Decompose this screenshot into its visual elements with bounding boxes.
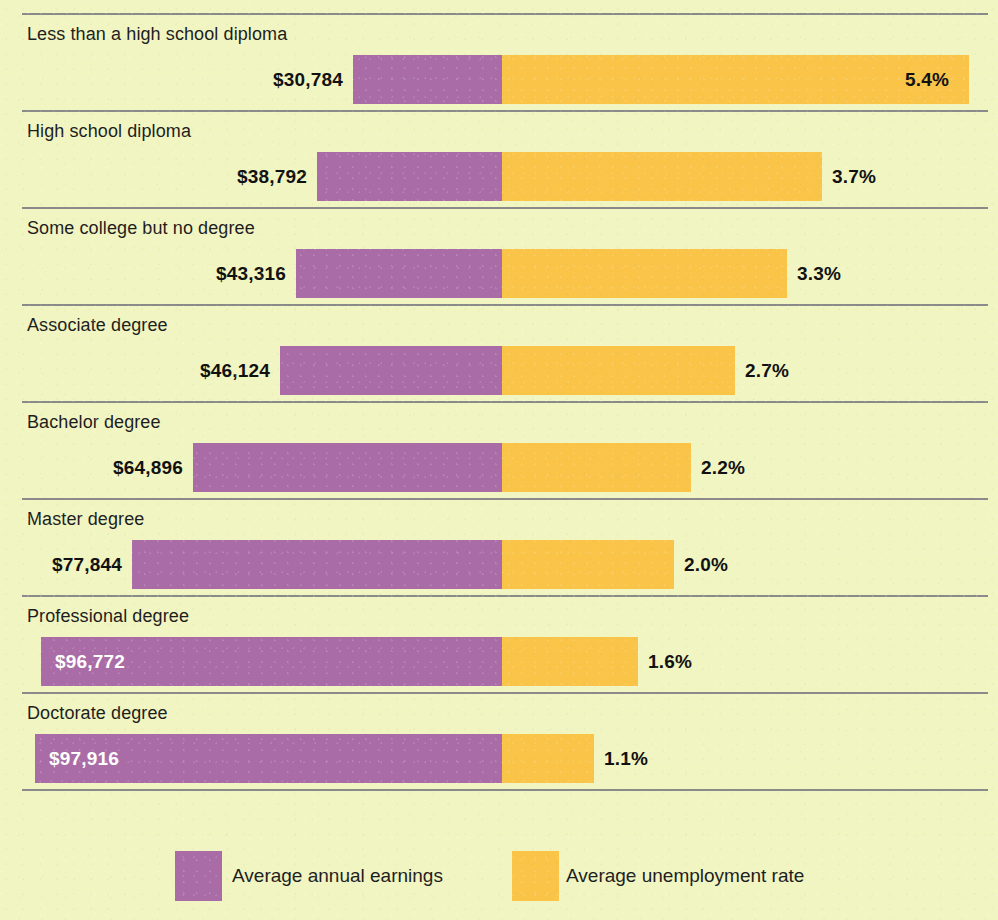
- chart-row: Associate degree $46,124 2.7%: [0, 304, 998, 401]
- chart-row: Professional degree $96,772 1.6%: [0, 595, 998, 692]
- unemployment-bar: [502, 249, 787, 298]
- row-separator: [22, 13, 988, 15]
- unemployment-value-label: 1.6%: [648, 637, 692, 686]
- unemployment-bar: [502, 55, 969, 104]
- unemployment-bar: [502, 346, 735, 395]
- unemployment-value-label: 1.1%: [604, 734, 648, 783]
- category-label: Some college but no degree: [27, 217, 255, 239]
- category-label: Less than a high school diploma: [27, 23, 287, 45]
- chart-row: Less than a high school diploma $30,784 …: [0, 13, 998, 110]
- unemployment-value-label: 2.0%: [684, 540, 728, 589]
- earnings-value-label: $97,916: [49, 734, 209, 783]
- earnings-bar: [193, 443, 502, 492]
- chart-legend: Average annual earnings Average unemploy…: [0, 845, 998, 905]
- earnings-bar: [317, 152, 502, 201]
- earnings-bar: [353, 55, 502, 104]
- category-label: High school diploma: [27, 120, 191, 142]
- earnings-value-label: $96,772: [55, 637, 215, 686]
- row-separator: [22, 498, 988, 500]
- unemployment-bar: [502, 152, 822, 201]
- row-separator: [22, 110, 988, 112]
- row-separator: [22, 401, 988, 403]
- category-label: Professional degree: [27, 605, 189, 627]
- earnings-value-label: $64,896: [53, 443, 183, 492]
- legend-label-earnings: Average annual earnings: [232, 851, 443, 901]
- earnings-bar: [296, 249, 502, 298]
- row-separator: [22, 692, 988, 694]
- chart-row: High school diploma $38,792 3.7%: [0, 110, 998, 207]
- chart-row: Doctorate degree $97,916 1.1%: [0, 692, 998, 789]
- legend-separator: [22, 789, 988, 791]
- earnings-bar: [280, 346, 502, 395]
- chart-row: Bachelor degree $64,896 2.2%: [0, 401, 998, 498]
- earnings-value-label: $30,784: [213, 55, 343, 104]
- legend-swatch-unemployment: [512, 851, 559, 901]
- legend-swatch-earnings: [175, 851, 222, 901]
- unemployment-value-label: 3.3%: [797, 249, 841, 298]
- row-separator: [22, 207, 988, 209]
- row-separator: [22, 304, 988, 306]
- category-label: Master degree: [27, 508, 144, 530]
- earnings-value-label: $43,316: [156, 249, 286, 298]
- unemployment-bar: [502, 443, 691, 492]
- unemployment-value-label: 5.4%: [905, 55, 949, 104]
- unemployment-value-label: 3.7%: [832, 152, 876, 201]
- unemployment-value-label: 2.7%: [745, 346, 789, 395]
- row-separator: [22, 595, 988, 597]
- unemployment-bar: [502, 540, 674, 589]
- category-label: Bachelor degree: [27, 411, 161, 433]
- unemployment-value-label: 2.2%: [701, 443, 745, 492]
- earnings-bar: [132, 540, 502, 589]
- unemployment-bar: [502, 637, 638, 686]
- education-earnings-chart: Less than a high school diploma $30,784 …: [0, 0, 998, 920]
- chart-row: Master degree $77,844 2.0%: [0, 498, 998, 595]
- unemployment-bar: [502, 734, 594, 783]
- category-label: Doctorate degree: [27, 702, 168, 724]
- earnings-value-label: $46,124: [140, 346, 270, 395]
- category-label: Associate degree: [27, 314, 168, 336]
- earnings-value-label: $38,792: [177, 152, 307, 201]
- legend-label-unemployment: Average unemployment rate: [566, 851, 804, 901]
- chart-row: Some college but no degree $43,316 3.3%: [0, 207, 998, 304]
- earnings-value-label: $77,844: [0, 540, 122, 589]
